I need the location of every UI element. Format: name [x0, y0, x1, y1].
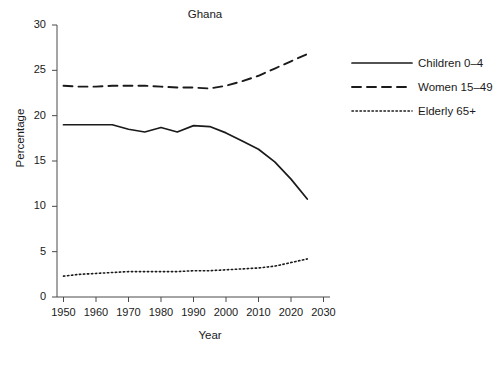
y-tick-label: 30 — [20, 18, 46, 30]
legend-label-children: Children 0–4 — [418, 57, 483, 69]
axes — [52, 25, 330, 302]
y-tick-label: 10 — [20, 199, 46, 211]
legend-label-elderly: Elderly 65+ — [418, 105, 476, 117]
y-tick-label: 20 — [20, 109, 46, 121]
y-tick-label: 15 — [20, 154, 46, 166]
series-line — [64, 54, 308, 88]
legend-label-women: Women 15–49 — [418, 81, 493, 93]
series-line — [64, 259, 308, 276]
legend-sample-lines — [352, 63, 412, 111]
y-tick-label: 25 — [20, 63, 46, 75]
series-line — [64, 125, 308, 199]
y-tick-label: 0 — [20, 290, 46, 302]
chart-figure: Ghana Percentage Year 051015202530195019… — [0, 0, 496, 372]
x-tick-label: 2030 — [304, 306, 344, 318]
y-tick-label: 5 — [20, 245, 46, 257]
data-series-group — [64, 54, 308, 276]
